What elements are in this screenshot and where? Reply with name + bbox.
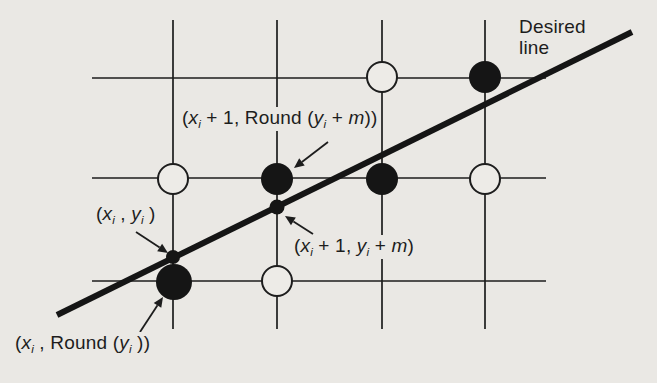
label-text: )): [364, 107, 377, 128]
label-text: y: [131, 203, 141, 224]
label-text: +: [326, 107, 348, 128]
line-point-dot: [166, 250, 180, 264]
label-text: ): [407, 235, 414, 256]
desired-line-text-1: Desired: [519, 16, 586, 37]
pointer-arrow-shaft: [136, 232, 160, 248]
filled-pixel-circle: [469, 61, 501, 93]
label-text: + 1,: [313, 235, 357, 256]
label-text: y: [314, 107, 324, 128]
label-text: y: [357, 235, 367, 256]
filled-pixel-circle: [261, 163, 293, 195]
label-text: ): [144, 203, 156, 224]
pointer-arrow-shaft: [293, 221, 313, 234]
open-pixel-circle: [262, 266, 292, 296]
label-next-line-point: (xi + 1, yi + m): [291, 235, 417, 259]
pointer-arrow-head: [294, 158, 305, 168]
label-text: x: [22, 332, 32, 353]
label-current-point: (xi , yi ): [93, 203, 159, 227]
pointer-arrow-shaft: [140, 305, 158, 332]
desired-line-text-2: line: [519, 37, 549, 58]
figure-container: (xi + 1, Round (yi + m)) (xi , yi ) (xi …: [0, 0, 657, 383]
label-text: , Round (: [34, 332, 119, 353]
label-text: x: [103, 203, 113, 224]
label-text: m: [391, 235, 407, 256]
pointer-arrow-head: [154, 297, 163, 308]
label-text: +: [369, 235, 391, 256]
line-point-dot: [270, 200, 285, 215]
pointer-arrow-shaft: [302, 142, 328, 162]
desired-line: [57, 32, 632, 315]
pointer-arrow-head: [285, 216, 296, 225]
open-pixel-circle: [470, 164, 500, 194]
open-pixel-circle: [367, 62, 397, 92]
label-text: ,: [115, 203, 131, 224]
label-text: m: [348, 107, 364, 128]
label-round-current-pixel: (xi , Round (yi )): [12, 332, 153, 356]
label-desired-line: Desired line: [516, 16, 589, 59]
filled-pixel-circle: [366, 163, 398, 195]
label-text: x: [189, 107, 199, 128]
open-pixel-circle: [158, 164, 188, 194]
label-text: + 1, Round (: [201, 107, 314, 128]
pointer-arrow-head: [157, 244, 168, 253]
label-round-next-pixel: (xi + 1, Round (yi + m)): [179, 107, 381, 131]
label-text: )): [132, 332, 151, 353]
filled-pixel-circle: [156, 264, 192, 300]
label-text: x: [301, 235, 311, 256]
label-text: y: [119, 332, 129, 353]
